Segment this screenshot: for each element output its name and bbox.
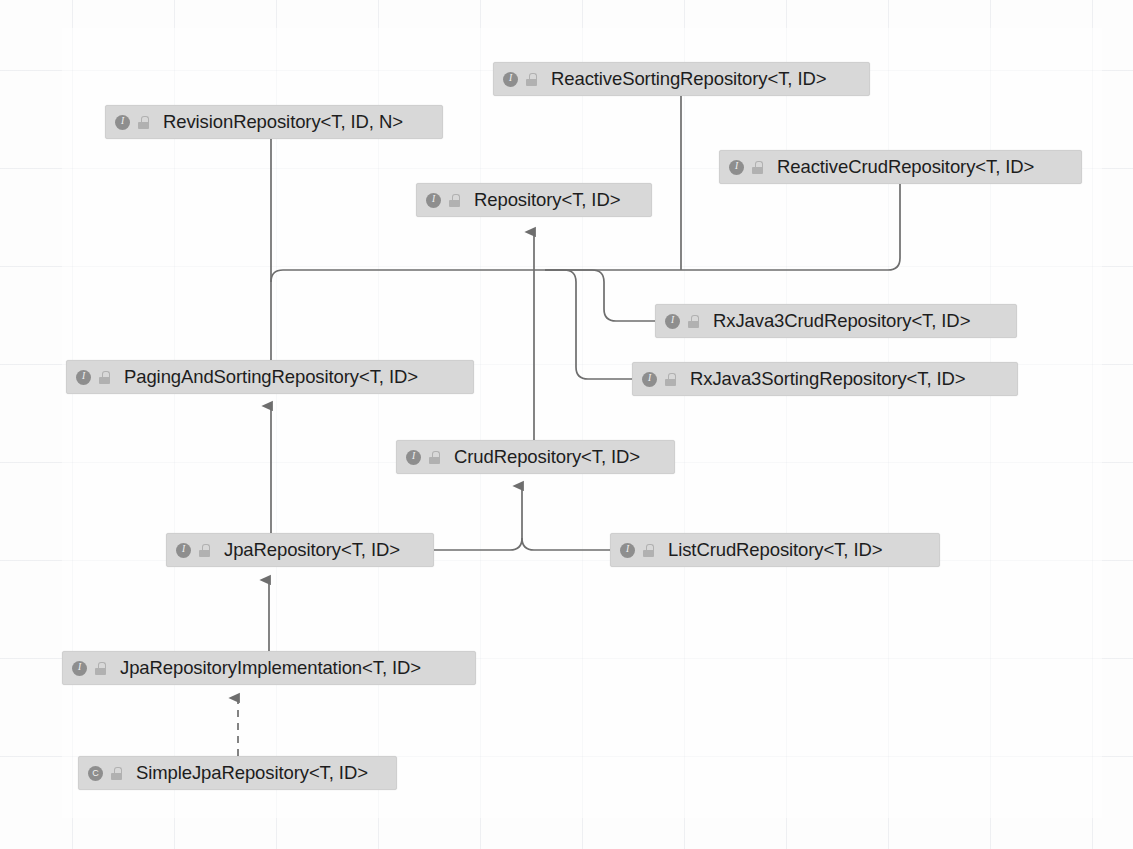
lock-icon bbox=[98, 371, 111, 384]
node-label: Repository<T, ID> bbox=[474, 191, 620, 210]
node-label: JpaRepository<T, ID> bbox=[224, 541, 400, 560]
edge-jpa-to-crud bbox=[434, 500, 522, 550]
node-reactivecrudrepository[interactable]: I ReactiveCrudRepository<T, ID> bbox=[719, 150, 1082, 184]
lock-icon bbox=[525, 73, 538, 86]
node-jparepository[interactable]: I JpaRepository<T, ID> bbox=[166, 533, 434, 567]
lock-icon bbox=[664, 373, 677, 386]
interface-icon: I bbox=[665, 314, 680, 329]
interface-icon: I bbox=[115, 115, 130, 130]
edge-reactivecrud-to-repository bbox=[785, 184, 900, 270]
lock-icon bbox=[428, 451, 441, 464]
node-repository[interactable]: I Repository<T, ID> bbox=[416, 183, 652, 217]
edge-bus bbox=[271, 270, 785, 282]
node-pagingandsortingrepository[interactable]: I PagingAndSortingRepository<T, ID> bbox=[66, 360, 474, 394]
edge-rxcrud-to-repository bbox=[545, 270, 655, 321]
node-revisionrepository[interactable]: I RevisionRepository<T, ID, N> bbox=[105, 105, 443, 139]
interface-icon: I bbox=[176, 543, 191, 558]
node-label: ReactiveSortingRepository<T, ID> bbox=[551, 70, 826, 89]
node-label: JpaRepositoryImplementation<T, ID> bbox=[120, 659, 421, 678]
node-crudrepository[interactable]: I CrudRepository<T, ID> bbox=[396, 440, 675, 474]
node-listcrudrepository[interactable]: I ListCrudRepository<T, ID> bbox=[610, 533, 940, 567]
node-rxjava3crudrepository[interactable]: I RxJava3CrudRepository<T, ID> bbox=[655, 304, 1017, 338]
interface-icon: I bbox=[72, 661, 87, 676]
node-rxjava3sortingrepository[interactable]: I RxJava3SortingRepository<T, ID> bbox=[632, 362, 1018, 396]
node-reactivesortingrepository[interactable]: I ReactiveSortingRepository<T, ID> bbox=[493, 62, 870, 96]
node-label: SimpleJpaRepository<T, ID> bbox=[136, 764, 368, 783]
interface-icon: I bbox=[620, 543, 635, 558]
interface-icon: I bbox=[642, 372, 657, 387]
lock-icon bbox=[642, 544, 655, 557]
interface-icon: I bbox=[76, 370, 91, 385]
lock-icon bbox=[137, 116, 150, 129]
interface-icon: I bbox=[729, 160, 744, 175]
edge-listcrud-to-crud bbox=[522, 538, 610, 550]
node-label: ListCrudRepository<T, ID> bbox=[668, 541, 882, 560]
node-label: RxJava3SortingRepository<T, ID> bbox=[690, 370, 966, 389]
node-label: PagingAndSortingRepository<T, ID> bbox=[124, 368, 418, 387]
interface-icon: I bbox=[406, 450, 421, 465]
diagram-canvas: I ReactiveSortingRepository<T, ID> I Rev… bbox=[0, 0, 1133, 849]
node-label: ReactiveCrudRepository<T, ID> bbox=[777, 158, 1034, 177]
lock-icon bbox=[94, 662, 107, 675]
interface-icon: I bbox=[503, 72, 518, 87]
lock-icon bbox=[687, 315, 700, 328]
node-simplejparepository[interactable]: C SimpleJpaRepository<T, ID> bbox=[78, 756, 397, 790]
interface-icon: I bbox=[426, 193, 441, 208]
lock-icon bbox=[751, 161, 764, 174]
edge-rxsorting-to-repository bbox=[545, 270, 632, 379]
node-label: CrudRepository<T, ID> bbox=[454, 448, 640, 467]
lock-icon bbox=[448, 194, 461, 207]
class-icon: C bbox=[88, 766, 103, 781]
lock-icon bbox=[110, 767, 123, 780]
node-label: RevisionRepository<T, ID, N> bbox=[163, 113, 403, 132]
lock-icon bbox=[198, 544, 211, 557]
node-label: RxJava3CrudRepository<T, ID> bbox=[713, 312, 970, 331]
node-jparepositoryimplementation[interactable]: I JpaRepositoryImplementation<T, ID> bbox=[62, 651, 476, 685]
